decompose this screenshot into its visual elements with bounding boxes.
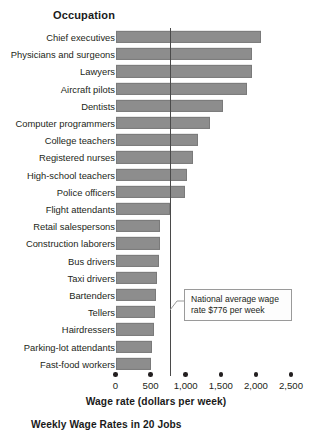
- bar-category-label: Registered nurses: [39, 152, 115, 163]
- bar-category-label: Taxi drivers: [68, 272, 115, 283]
- bar-category-label: Tellers: [88, 307, 115, 318]
- bar: [116, 237, 160, 249]
- x-axis-tick-label: 2,000: [244, 380, 268, 391]
- bar-row: Aircraft pilots: [0, 80, 312, 97]
- bar-row: Police officers: [0, 183, 312, 200]
- x-axis-tick-label: 0: [113, 380, 118, 391]
- x-axis-tick-label: 1,000: [174, 380, 198, 391]
- bar-row: Taxi drivers: [0, 269, 312, 286]
- bar-row: Parking-lot attendants: [0, 338, 312, 355]
- bar: [116, 117, 210, 129]
- x-axis-tick-label: 1,500: [209, 380, 233, 391]
- bar: [116, 65, 252, 77]
- x-axis-tick-dot: [219, 372, 224, 377]
- bar: [116, 255, 160, 267]
- x-axis-tick-label: 2,500: [279, 380, 303, 391]
- bar: [116, 83, 248, 95]
- bar-row: Computer programmers: [0, 115, 312, 132]
- bar-row: College teachers: [0, 132, 312, 149]
- bar-row: Bus drivers: [0, 252, 312, 269]
- bar-category-label: Dentists: [81, 100, 115, 111]
- bar: [116, 151, 194, 163]
- bar: [116, 134, 198, 146]
- bar-category-label: Fast-food workers: [40, 358, 115, 369]
- bar-row: Construction laborers: [0, 235, 312, 252]
- bar-category-label: Physicians and surgeons: [11, 49, 115, 60]
- national-average-callout: National average wage rate $776 per week: [184, 289, 292, 321]
- bar-row: Registered nurses: [0, 149, 312, 166]
- bar-category-label: Retail salespersons: [33, 221, 115, 232]
- bar: [116, 306, 155, 318]
- x-axis-tick-dot: [289, 372, 294, 377]
- x-axis-tick-dot: [148, 372, 153, 377]
- bar-category-label: High-school teachers: [27, 169, 115, 180]
- bar-row: Physicians and surgeons: [0, 46, 312, 63]
- bar: [116, 31, 262, 43]
- bar-row: Hairdressers: [0, 321, 312, 338]
- x-axis-tick-dot: [113, 372, 118, 377]
- x-axis-tick-label: 500: [143, 380, 159, 391]
- bar-category-label: Aircraft pilots: [61, 83, 115, 94]
- bar-row: Fast-food workers: [0, 355, 312, 372]
- bar-row: Retail salespersons: [0, 218, 312, 235]
- bar-category-label: College teachers: [45, 135, 115, 146]
- bar-category-label: Flight attendants: [46, 204, 115, 215]
- bar: [116, 186, 185, 198]
- occupation-column-title: Occupation: [53, 9, 115, 21]
- bar: [116, 48, 253, 60]
- bar-category-label: Lawyers: [80, 66, 115, 77]
- bar-category-label: Parking-lot attendants: [24, 341, 115, 352]
- bar-row: High-school teachers: [0, 166, 312, 183]
- bar: [116, 323, 155, 335]
- figure-caption: Weekly Wage Rates in 20 Jobs: [31, 419, 182, 430]
- bar-category-label: Bus drivers: [68, 255, 115, 266]
- bar: [116, 358, 151, 370]
- bar-category-label: Construction laborers: [26, 238, 115, 249]
- national-average-reference-line: [170, 28, 171, 376]
- bar: [116, 203, 170, 215]
- bar: [116, 341, 153, 353]
- bar-row: Chief executives: [0, 29, 312, 46]
- bar-category-label: Computer programmers: [15, 118, 115, 129]
- x-axis-tick-dot: [254, 372, 259, 377]
- bar-category-label: Police officers: [57, 186, 115, 197]
- bar: [116, 220, 161, 232]
- bar-category-label: Chief executives: [46, 32, 115, 43]
- x-axis-label: Wage rate (dollars per week): [0, 396, 312, 407]
- bar-row: Lawyers: [0, 63, 312, 80]
- bar-category-label: Hairdressers: [62, 324, 115, 335]
- x-axis-tick-dot: [183, 372, 188, 377]
- bar-row: Dentists: [0, 97, 312, 114]
- bar: [116, 169, 188, 181]
- bar-row: Flight attendants: [0, 201, 312, 218]
- bar: [116, 289, 156, 301]
- bar: [116, 272, 157, 284]
- callout-text: National average wage rate $776 per week: [191, 294, 279, 315]
- bar-category-label: Bartenders: [69, 290, 115, 301]
